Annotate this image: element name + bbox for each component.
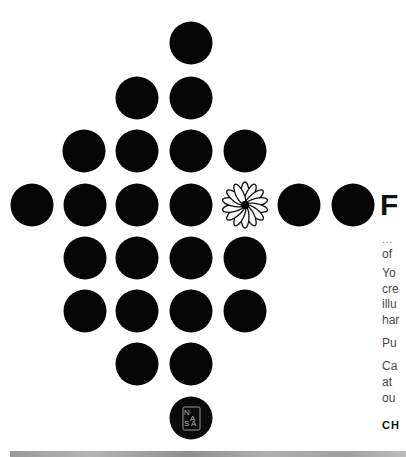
circle-dot — [63, 130, 106, 173]
headline: F — [380, 190, 398, 220]
circle-dot — [170, 343, 213, 386]
daisy-flower-icon — [221, 181, 269, 229]
circle-dot — [170, 22, 213, 65]
circle-dot — [116, 290, 159, 333]
circle-dot — [64, 184, 107, 227]
circle-dot — [170, 237, 213, 280]
body-line-2: Yo — [382, 266, 396, 280]
nasa-logo: NASA — [170, 397, 213, 440]
nasa-letter: S — [184, 419, 189, 427]
body-line-8: at — [382, 375, 392, 389]
circle-dot — [224, 290, 267, 333]
circle-dot — [116, 343, 159, 386]
circle-dot — [64, 237, 107, 280]
circle-dot — [116, 184, 159, 227]
nasa-letter: A — [191, 419, 196, 427]
circle-dot — [116, 237, 159, 280]
body-line-6: Pu — [382, 336, 397, 350]
circle-dot — [170, 290, 213, 333]
circle-dot — [332, 184, 375, 227]
body-line-9: ou — [382, 391, 395, 405]
cta-heading: CH — [382, 419, 400, 431]
nasa-logo-box: NASA — [182, 406, 200, 430]
circle-dot — [224, 237, 267, 280]
circle-dot — [170, 184, 213, 227]
circle-dot — [11, 184, 54, 227]
body-line-7: Ca — [382, 359, 397, 373]
circle-dot — [64, 290, 107, 333]
circle-dot — [170, 77, 213, 120]
body-line-1: of — [382, 247, 392, 261]
circle-dot — [170, 130, 213, 173]
bottom-gray-band — [10, 451, 406, 457]
body-line-4: illu — [382, 297, 397, 311]
circle-dot — [116, 130, 159, 173]
ellipsis-text: ... — [382, 233, 393, 247]
body-line-3: cre — [382, 282, 399, 296]
circle-dot — [278, 184, 321, 227]
nasa-letter: N — [184, 408, 190, 416]
circle-dot — [224, 130, 267, 173]
circle-dot — [116, 77, 159, 120]
body-line-5: har — [382, 313, 399, 327]
